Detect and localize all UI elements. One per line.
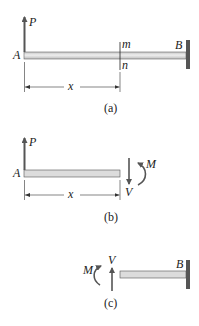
distance-x-label: x bbox=[67, 187, 74, 201]
end-b-label: B bbox=[175, 38, 183, 52]
force-p-label: P bbox=[28, 135, 37, 149]
end-b-label: B bbox=[176, 257, 184, 271]
caption-a: (a) bbox=[104, 101, 117, 115]
moment-m-label: M bbox=[82, 263, 94, 277]
caption-b: (b) bbox=[104, 210, 118, 224]
force-p-label: P bbox=[28, 15, 37, 29]
distance-x-label: x bbox=[67, 79, 74, 93]
shear-v-label: V bbox=[108, 253, 117, 267]
panel-c: B V M (c) bbox=[82, 253, 190, 310]
end-a-label: A bbox=[12, 166, 21, 180]
caption-c: (c) bbox=[104, 296, 117, 310]
beam-segment-left bbox=[24, 170, 120, 177]
end-a-label: A bbox=[12, 48, 21, 62]
moment-m-arrow bbox=[138, 163, 146, 185]
panel-a: P A m n B x (a) bbox=[12, 15, 190, 115]
section-n-label: n bbox=[122, 58, 128, 72]
shear-v-label: V bbox=[125, 185, 134, 199]
beam-full bbox=[24, 52, 186, 59]
section-m-label: m bbox=[122, 37, 131, 51]
fixed-wall bbox=[186, 260, 190, 289]
beam-segment-right bbox=[120, 271, 186, 278]
fixed-wall bbox=[186, 40, 190, 69]
moment-m-arrow bbox=[94, 266, 101, 285]
cantilever-beam-diagram: P A m n B x (a) P A V M x (b) B V bbox=[0, 0, 199, 326]
panel-b: P A V M x (b) bbox=[12, 135, 157, 224]
moment-m-label: M bbox=[145, 157, 157, 171]
